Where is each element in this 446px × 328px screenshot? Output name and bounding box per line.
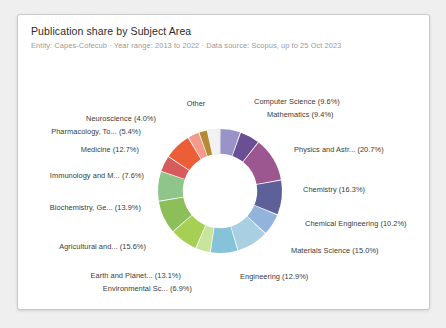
slice-label: Agricultural and... (15.6%) [59,242,146,251]
slice-label: Mathematics (9.4%) [267,110,334,119]
leader-line [283,189,301,198]
leader-line [196,252,203,288]
leader-line [224,254,238,276]
slice-label: Medicine (12.7%) [81,145,139,154]
leader-line [160,118,203,130]
slice-label: Physics and Astr... (20.7%) [294,145,384,154]
chart-card: Publication share by Subject Area Entity… [17,14,430,310]
slice-label: Engineering (12.9%) [240,272,308,281]
slice-label: Computer Science (9.6%) [254,97,340,106]
slice-label: Pharmacology, To... (5.4%) [51,127,141,136]
leader-line [253,244,289,250]
leader-line [231,101,252,129]
slice-label: Earth and Planet... (13.1%) [91,271,182,280]
leader-line [274,149,292,159]
leader-line [273,223,303,225]
leader-line [150,218,163,246]
leader-line [183,242,185,275]
slice-label: Environmental Sc... (6.9%) [103,284,192,293]
donut-chart [18,15,430,310]
slice-label: Neuroscience (4.0%) [86,114,156,123]
slice-label: Materials Science (15.0%) [291,246,379,255]
leader-line [145,186,157,207]
slice-label: Chemical Engineering (10.2%) [305,219,407,228]
leader-line [250,114,265,136]
slice-label: Other [187,99,206,108]
slice-label: Chemistry (16.3%) [303,185,365,194]
slice-label: Immunology and M... (7.6%) [50,171,144,180]
donut-slice-group [158,129,282,253]
slice-label: Biochemistry, Ge... (13.9%) [50,203,141,212]
leader-line [145,131,193,134]
leader-line [143,145,177,149]
